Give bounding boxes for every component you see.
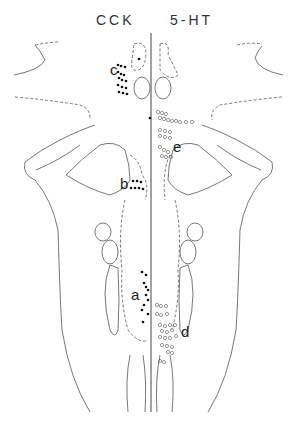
region-label-e: e bbox=[173, 139, 181, 154]
brain-section-diagram: CCK 5-HT c b e a d bbox=[0, 0, 297, 421]
region-label-c: c bbox=[110, 62, 118, 77]
region-label-a: a bbox=[131, 287, 139, 302]
cck-header: CCK bbox=[96, 12, 135, 28]
section-outline bbox=[0, 0, 297, 421]
region-label-d: d bbox=[181, 324, 189, 339]
5ht-header: 5-HT bbox=[170, 12, 213, 28]
region-label-b: b bbox=[120, 176, 128, 191]
